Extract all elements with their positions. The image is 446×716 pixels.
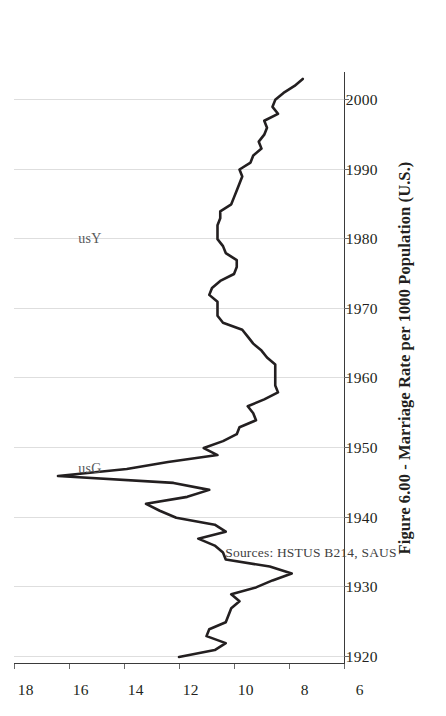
plot-area: 181614121086 192019301940195019601970198… [14, 72, 344, 664]
rotated-chart-stage: 181614121086 192019301940195019601970198… [0, 0, 446, 716]
y-tick-10 [234, 664, 235, 669]
y-tick-label-18: 18 [0, 682, 34, 698]
y-tick-14 [124, 664, 125, 669]
y-tick-label-10: 10 [214, 682, 254, 698]
y-tick-label-14: 14 [104, 682, 144, 698]
y-tick-18 [14, 664, 15, 669]
series-line-usY [14, 72, 344, 664]
series-label-usG: usG [78, 461, 101, 477]
y-tick-8 [289, 664, 290, 669]
y-tick-label-16: 16 [49, 682, 89, 698]
y-tick-label-8: 8 [269, 682, 309, 698]
figure-title: Figure 6.00 - Marriage Rate per 1000 Pop… [395, 0, 415, 716]
y-tick-label-6: 6 [324, 682, 364, 698]
source-note: Sources: HSTUS B214, SAUS [225, 545, 397, 561]
series-label-usY: usY [78, 231, 101, 247]
y-tick-12 [179, 664, 180, 669]
y-tick-16 [69, 664, 70, 669]
y-tick-6 [344, 664, 345, 669]
series-path-usY [58, 79, 303, 657]
y-tick-label-12: 12 [159, 682, 199, 698]
